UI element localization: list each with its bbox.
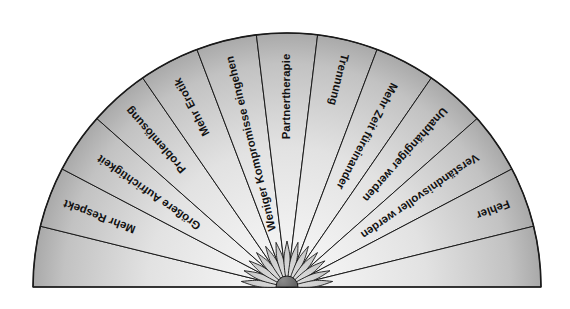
wedge-label-seg-partnertherapie: Partnertherapie [280, 54, 292, 140]
semicircular-fan-diagram: Mehr RespektGrößere AufrichtigkeitProble… [0, 0, 570, 309]
diagram-canvas: Mehr RespektGrößere AufrichtigkeitProble… [0, 0, 570, 309]
